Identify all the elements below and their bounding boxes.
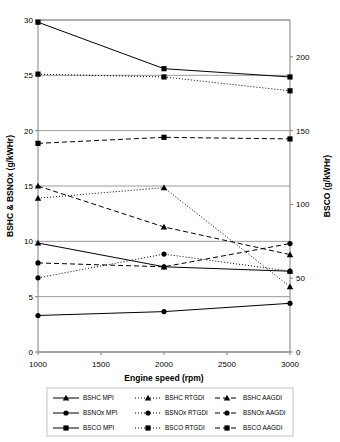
legend-item-label: BSNOx RTGDI [165,409,208,416]
x-axis-title: Engine speed (rpm) [124,373,204,383]
data-point-marker [161,135,166,140]
legend-marker-circle-icon [63,410,68,415]
legend-item[interactable]: BSCO AAGDI [215,424,283,431]
data-point-marker [287,74,292,79]
y-tick-label-left: 0 [29,348,34,357]
y-tick-label-right: 150 [296,127,310,136]
legend-item-label: BSCO AAGDI [243,424,283,431]
data-point-marker [35,313,40,318]
y-tick-label-right: 50 [296,274,305,283]
emissions-line-chart: 051015202530BSHC & BSNOx (g/kWHr)0501001… [0,0,340,442]
y-axis-right-title: BSCO (g/kWHr) [322,155,332,218]
data-point-marker [35,20,40,25]
y-axis-left-title: BSHC & BSNOx (g/kWHr) [5,135,15,237]
data-point-marker [35,260,40,265]
legend-marker-square-icon [63,425,68,430]
data-point-marker [161,309,166,314]
legend-item-label: BSHC MPI [83,394,114,401]
x-tick-label: 3000 [281,360,299,369]
legend-item-label: BSHC RTGDI [165,394,205,401]
data-point-marker [287,136,292,141]
data-point-marker [35,275,40,280]
legend: BSHC MPIBSHC RTGDIBSHC AAGDIBSNOx MPIBSN… [47,388,293,436]
y-tick-label-left: 25 [24,71,33,80]
legend-marker-circle-icon [145,410,150,415]
data-point-marker [161,251,166,256]
legend-item-label: BSCO MPI [83,424,114,431]
data-point-marker [287,269,292,274]
y-tick-label-left: 30 [24,16,33,25]
data-point-marker [287,88,292,93]
legend-marker-square-icon [145,425,150,430]
y-tick-label-right: 100 [296,200,310,209]
y-tick-label-left: 20 [24,127,33,136]
y-tick-label-right: 0 [296,348,301,357]
y-tick-label-left: 5 [29,293,34,302]
legend-item-label: BSCO RTGDI [165,424,205,431]
data-point-marker [287,301,292,306]
legend-item-label: BSHC AAGDI [243,394,282,401]
legend-item-label: BSNOx AAGDI [243,409,286,416]
x-tick-label: 1000 [29,360,47,369]
x-tick-label: 1500 [92,360,110,369]
chart-figure: 051015202530BSHC & BSNOx (g/kWHr)0501001… [0,0,340,442]
data-point-marker [35,141,40,146]
data-point-marker [35,72,40,77]
legend-marker-square-icon [224,425,229,430]
legend-marker-circle-icon [224,410,229,415]
legend-item-label: BSNOx MPI [83,409,118,416]
data-point-marker [161,66,166,71]
data-point-marker [287,241,292,246]
y-tick-label-left: 10 [24,237,33,246]
data-point-marker [161,74,166,79]
legend-item[interactable]: BSCO RTGDI [135,424,205,431]
y-tick-label-left: 15 [24,182,33,191]
x-tick-label: 2500 [218,360,236,369]
x-tick-label: 2000 [155,360,173,369]
y-tick-label-right: 200 [296,53,310,62]
data-point-marker [161,264,166,269]
